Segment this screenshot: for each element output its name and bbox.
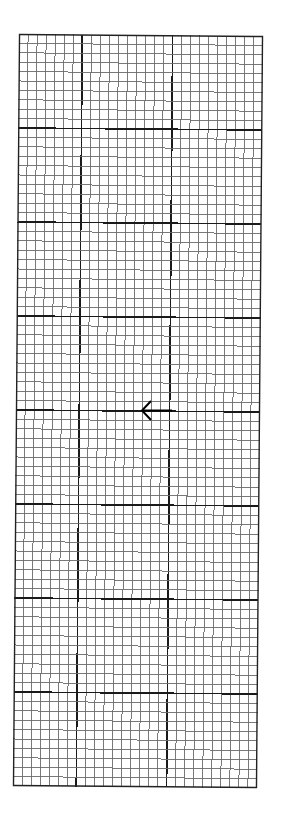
grid-minor-row-line xyxy=(14,683,258,685)
grid-minor-row-line xyxy=(18,119,262,121)
grid-major-row-line xyxy=(15,504,259,506)
grid-minor-row-line xyxy=(17,288,261,290)
grid-minor-row-line xyxy=(19,53,263,55)
grid-minor-row-line xyxy=(13,748,257,750)
grid-minor-row-line xyxy=(18,175,262,177)
grid-minor-row-line xyxy=(15,542,259,544)
grid-minor-row-line xyxy=(18,147,262,149)
grid-minor-row-line xyxy=(17,307,261,309)
grid-minor-row-line xyxy=(17,269,261,271)
grid-major-row-line xyxy=(16,410,260,412)
grid-minor-row-line xyxy=(17,344,261,346)
grid-minor-row-line xyxy=(16,466,260,468)
grid-major-row-line xyxy=(17,316,261,318)
grid-minor-row-line xyxy=(17,297,261,299)
grid-minor-row-line xyxy=(13,758,257,760)
grid-minor-row-line xyxy=(16,372,260,374)
grid-minor-row-line xyxy=(18,194,262,196)
grid-minor-row-line xyxy=(17,260,261,262)
grid-minor-row-line xyxy=(13,730,257,732)
grid-major-row-line xyxy=(14,692,258,694)
grid-minor-row-line xyxy=(13,777,257,779)
grid-minor-row-line xyxy=(16,457,260,459)
grid-minor-row-line xyxy=(16,354,260,356)
grid-minor-row-line xyxy=(15,532,259,534)
grid-minor-row-line xyxy=(16,438,260,440)
grid-minor-row-line xyxy=(17,241,261,243)
grid-lines xyxy=(13,34,263,788)
grid-minor-row-line xyxy=(13,767,257,769)
grid-minor-row-line xyxy=(19,62,263,64)
grid-minor-row-line xyxy=(18,137,262,139)
arrow-left-glyph xyxy=(140,399,174,423)
grid-minor-row-line xyxy=(14,673,258,675)
grid-minor-row-line xyxy=(14,720,258,722)
grid-minor-row-line xyxy=(16,401,260,403)
grid-minor-row-line xyxy=(18,109,262,111)
grid-minor-row-line xyxy=(14,607,258,609)
grid-minor-row-line xyxy=(17,231,261,233)
grid-minor-row-line xyxy=(14,701,258,703)
grid-minor-row-line xyxy=(19,72,263,74)
grid-minor-row-line xyxy=(17,250,261,252)
grid-minor-row-line xyxy=(18,184,262,186)
graph-paper-grid xyxy=(13,34,263,788)
grid-minor-row-line xyxy=(17,335,261,337)
grid-minor-row-line xyxy=(18,166,262,168)
grid-minor-row-line xyxy=(19,43,263,45)
grid-minor-row-line xyxy=(15,551,259,553)
grid-minor-row-line xyxy=(15,570,259,572)
grid-minor-row-line xyxy=(16,382,260,384)
grid-minor-row-line xyxy=(15,513,259,515)
grid-minor-row-line xyxy=(15,476,259,478)
grid-minor-row-line xyxy=(14,626,258,628)
arrow-left-icon xyxy=(140,399,174,423)
grid-minor-row-line xyxy=(18,213,262,215)
grid-minor-row-line xyxy=(15,560,259,562)
grid-major-row-line xyxy=(14,598,258,600)
grid-minor-row-line xyxy=(14,664,258,666)
grid-minor-row-line xyxy=(17,325,261,327)
grid-minor-row-line xyxy=(15,579,259,581)
grid-minor-row-line xyxy=(15,485,259,487)
grid-minor-row-line xyxy=(19,81,263,83)
grid-minor-row-line xyxy=(15,523,259,525)
grid-minor-row-line xyxy=(15,589,259,591)
grid-minor-row-line xyxy=(16,448,260,450)
grid-minor-row-line xyxy=(13,739,257,741)
grid-minor-row-line xyxy=(16,419,260,421)
grid-minor-row-line xyxy=(18,100,262,102)
grid-minor-row-line xyxy=(19,90,263,92)
grid-minor-row-line xyxy=(14,711,258,713)
grid-minor-row-line xyxy=(16,391,260,393)
grid-minor-row-line xyxy=(16,429,260,431)
grid-minor-row-line xyxy=(14,654,258,656)
grid-minor-row-line xyxy=(15,495,259,497)
grid-major-row-line xyxy=(18,128,262,130)
grid-minor-row-line xyxy=(14,636,258,638)
grid-minor-row-line xyxy=(16,363,260,365)
grid-major-row-line xyxy=(18,222,262,224)
grid-minor-row-line xyxy=(17,278,261,280)
grid-minor-row-line xyxy=(18,156,262,158)
grid-minor-row-line xyxy=(14,617,258,619)
grid-minor-row-line xyxy=(18,203,262,205)
grid-minor-row-line xyxy=(14,645,258,647)
